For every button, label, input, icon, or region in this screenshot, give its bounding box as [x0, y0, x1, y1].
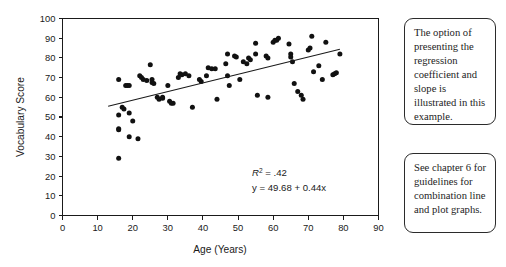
data-point	[214, 97, 219, 102]
y-axis-title: Vocabulary Score	[15, 77, 26, 157]
y-tick-label: 30	[45, 151, 55, 162]
regression-equation-annotation: y = 49.68 + 0.44x	[252, 182, 326, 193]
data-point	[227, 83, 232, 88]
data-point	[135, 136, 140, 141]
data-points	[116, 34, 342, 161]
y-tick-label: 70	[45, 72, 55, 83]
callout-chapter: See chapter 6 for guidelines for combina…	[404, 153, 496, 233]
data-point	[265, 55, 270, 60]
axis-frame	[63, 19, 379, 216]
r-squared-annotation: R2 = .42	[252, 167, 287, 179]
data-point	[234, 54, 239, 59]
data-point	[144, 78, 149, 83]
data-point	[151, 81, 156, 86]
data-point	[213, 66, 218, 71]
y-axis-ticks: 0102030405060708090100	[40, 13, 63, 221]
y-tick-label: 60	[45, 92, 55, 103]
data-point	[255, 93, 260, 98]
y-tick-label: 50	[45, 111, 55, 122]
data-point	[265, 95, 270, 100]
x-tick-label: 90	[373, 222, 383, 233]
data-point	[334, 70, 339, 75]
data-point	[127, 111, 132, 116]
data-point	[186, 73, 191, 78]
data-point	[190, 105, 195, 110]
data-point	[253, 51, 258, 56]
data-point	[292, 81, 297, 86]
data-point	[311, 69, 316, 74]
x-tick-label: 30	[163, 222, 173, 233]
callout-regression-text: The option of presenting the regression …	[414, 27, 485, 122]
data-point	[253, 41, 258, 46]
x-tick-label: 60	[268, 222, 278, 233]
x-tick-label: 20	[128, 222, 138, 233]
x-tick-label: 40	[198, 222, 208, 233]
data-point	[308, 46, 313, 51]
y-tick-label: 40	[45, 131, 55, 142]
data-point	[248, 57, 253, 62]
data-point	[160, 96, 165, 101]
data-point	[244, 61, 249, 66]
data-point	[116, 127, 121, 132]
data-point	[320, 77, 325, 82]
data-point	[337, 51, 342, 56]
y-tick-label: 10	[45, 190, 55, 201]
y-tick-label: 0	[50, 210, 55, 221]
x-tick-label: 70	[303, 222, 313, 233]
x-axis-ticks: 0102030405060708090	[60, 216, 384, 233]
data-point	[316, 63, 321, 68]
callout-chapter-text: See chapter 6 for guidelines for combina…	[414, 162, 486, 215]
scatter-plot-svg: 0102030405060708090100 01020304050607080…	[0, 0, 395, 267]
y-tick-label: 20	[45, 171, 55, 182]
data-point	[286, 42, 291, 47]
data-point	[116, 77, 121, 82]
data-point	[225, 51, 230, 56]
data-point	[288, 54, 293, 59]
y-tick-label: 100	[40, 13, 56, 24]
data-point	[127, 134, 132, 139]
data-point	[116, 113, 121, 118]
x-tick-label: 0	[60, 222, 65, 233]
data-point	[171, 101, 176, 106]
data-point	[237, 77, 242, 82]
data-point	[127, 83, 132, 88]
y-tick-label: 80	[45, 52, 55, 63]
data-point	[323, 40, 328, 45]
data-point	[130, 118, 135, 123]
data-point	[116, 156, 121, 161]
data-point	[301, 97, 306, 102]
scatter-plot-figure: 0102030405060708090100 01020304050607080…	[0, 0, 395, 267]
data-point	[148, 62, 153, 67]
figure-page: 0102030405060708090100 01020304050607080…	[0, 0, 506, 267]
y-tick-label: 90	[45, 33, 55, 44]
data-point	[276, 36, 281, 41]
x-tick-label: 80	[338, 222, 348, 233]
x-tick-label: 10	[92, 222, 102, 233]
callout-regression: The option of presenting the regression …	[404, 18, 496, 125]
data-point	[121, 107, 126, 112]
x-axis-title: Age (Years)	[193, 244, 246, 255]
data-point	[204, 73, 209, 78]
data-point	[295, 89, 300, 94]
x-tick-label: 50	[233, 222, 243, 233]
data-point	[223, 61, 228, 66]
data-point	[165, 83, 170, 88]
data-point	[309, 34, 314, 39]
